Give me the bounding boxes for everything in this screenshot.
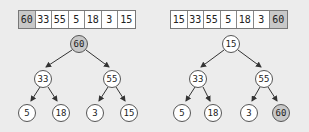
tree-node: 15 — [121, 105, 138, 122]
svg-text:3: 3 — [92, 108, 97, 118]
heap-after-panel: 15 33 55 5 18 3 60 15 33 55 5 18 — [155, 0, 309, 132]
tree-node: 18 — [205, 105, 222, 122]
tree-node: 5 — [174, 105, 191, 122]
tree-node: 3 — [87, 105, 104, 122]
svg-text:55: 55 — [259, 74, 270, 84]
svg-text:18: 18 — [208, 108, 219, 118]
tree-node: 55 — [104, 71, 121, 88]
heap-tree-before: 60 33 55 5 18 3 15 — [0, 0, 154, 132]
tree-node-root: 60 — [71, 36, 88, 53]
tree-node: 33 — [190, 71, 207, 88]
heap-tree-after: 15 33 55 5 18 3 60 — [155, 0, 309, 132]
heap-before-panel: 60 33 55 5 18 3 15 60 33 55 5 18 — [0, 0, 154, 132]
svg-text:15: 15 — [124, 108, 135, 118]
tree-node-highlighted: 60 — [273, 105, 290, 122]
tree-node: 3 — [241, 105, 258, 122]
tree-node-root: 15 — [223, 36, 240, 53]
svg-text:55: 55 — [107, 74, 118, 84]
svg-text:18: 18 — [56, 108, 67, 118]
tree-node: 55 — [256, 71, 273, 88]
tree-node: 18 — [53, 105, 70, 122]
svg-text:5: 5 — [179, 108, 184, 118]
svg-text:33: 33 — [38, 74, 49, 84]
svg-text:60: 60 — [276, 108, 287, 118]
tree-node: 5 — [19, 105, 36, 122]
svg-text:15: 15 — [226, 39, 237, 49]
tree-node: 33 — [35, 71, 52, 88]
svg-text:5: 5 — [24, 108, 29, 118]
svg-text:33: 33 — [193, 74, 204, 84]
svg-text:60: 60 — [74, 39, 85, 49]
svg-text:3: 3 — [246, 108, 251, 118]
